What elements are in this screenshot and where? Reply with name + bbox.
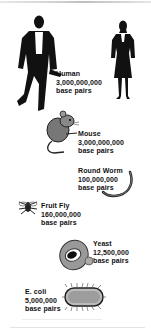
genome-unit: base pairs [78, 147, 124, 156]
genome-size: 100,000,000 [78, 176, 123, 185]
organism-name: Round Worm [78, 167, 123, 176]
organism-name: Mouse [78, 130, 124, 139]
genome-unit: base pairs [25, 305, 61, 314]
genome-unit: base pairs [41, 219, 81, 228]
organism-label-round-worm: Round Worm 100,000,000 base pairs [78, 167, 123, 193]
fruit-fly-icon [17, 197, 39, 217]
genome-size: 160,000,000 [41, 211, 81, 220]
mouse-icon [42, 108, 80, 156]
genome-size: 3,000,000,000 [56, 79, 102, 88]
organism-name: Human [56, 70, 102, 79]
bacterium-icon [62, 283, 106, 311]
top-border [0, 1, 151, 3]
faint-caption-line [22, 319, 102, 320]
genome-unit: base pairs [56, 87, 102, 96]
human-female-icon [107, 20, 139, 102]
genome-unit: base pairs [78, 184, 123, 193]
organism-label-fruit-fly: Fruit Fly 160,000,000 base pairs [41, 202, 81, 228]
organism-label-human: Human 3,000,000,000 base pairs [56, 70, 102, 96]
organism-name: Yeast [93, 240, 129, 249]
human-male-icon [14, 14, 64, 114]
genome-size: 12,500,000 [93, 249, 129, 258]
genome-size: 3,000,000,000 [78, 139, 124, 148]
organism-label-yeast: Yeast 12,500,000 base pairs [93, 240, 129, 266]
bottom-border [10, 327, 145, 328]
yeast-cell-icon [58, 238, 94, 272]
genome-unit: base pairs [93, 257, 129, 266]
organism-name: Fruit Fly [41, 202, 81, 211]
organism-name: E. coli [25, 288, 61, 297]
organism-label-mouse: Mouse 3,000,000,000 base pairs [78, 130, 124, 156]
organism-label-e-coli: E. coli 5,000,000 base pairs [25, 288, 61, 314]
genome-size: 5,000,000 [25, 297, 61, 306]
